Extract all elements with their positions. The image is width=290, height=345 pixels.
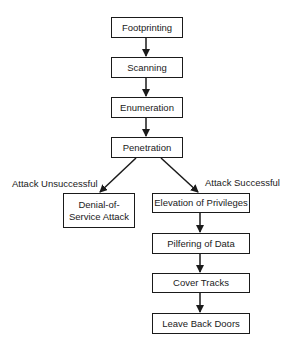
node-label: Leave Back Doors	[162, 318, 240, 330]
node-pilfering-of-data: Pilfering of Data	[152, 233, 250, 254]
node-cover-tracks: Cover Tracks	[152, 273, 250, 293]
node-penetration: Penetration	[111, 137, 183, 158]
node-scanning: Scanning	[111, 57, 183, 78]
node-label: Enumeration	[120, 102, 174, 114]
node-enumeration: Enumeration	[111, 97, 183, 118]
node-label: Cover Tracks	[173, 277, 229, 289]
connector-arrows	[0, 0, 290, 345]
node-label: Penetration	[123, 142, 172, 154]
node-label: Pilfering of Data	[167, 238, 235, 250]
node-label: Scanning	[127, 62, 167, 74]
node-label-line1: Denial-of-	[78, 199, 119, 211]
node-label: Footprinting	[122, 22, 172, 34]
node-label-line2: Service Attack	[69, 211, 129, 223]
node-label: Elevation of Privileges	[154, 197, 247, 209]
node-leave-back-doors: Leave Back Doors	[152, 313, 250, 334]
node-denial-of-service: Denial-of- Service Attack	[63, 193, 135, 228]
edge-label-unsuccessful: Attack Unsuccessful	[12, 178, 98, 189]
node-elevation-of-privileges: Elevation of Privileges	[152, 193, 250, 213]
edge-label-successful: Attack Successful	[205, 177, 280, 188]
node-footprinting: Footprinting	[111, 17, 183, 38]
